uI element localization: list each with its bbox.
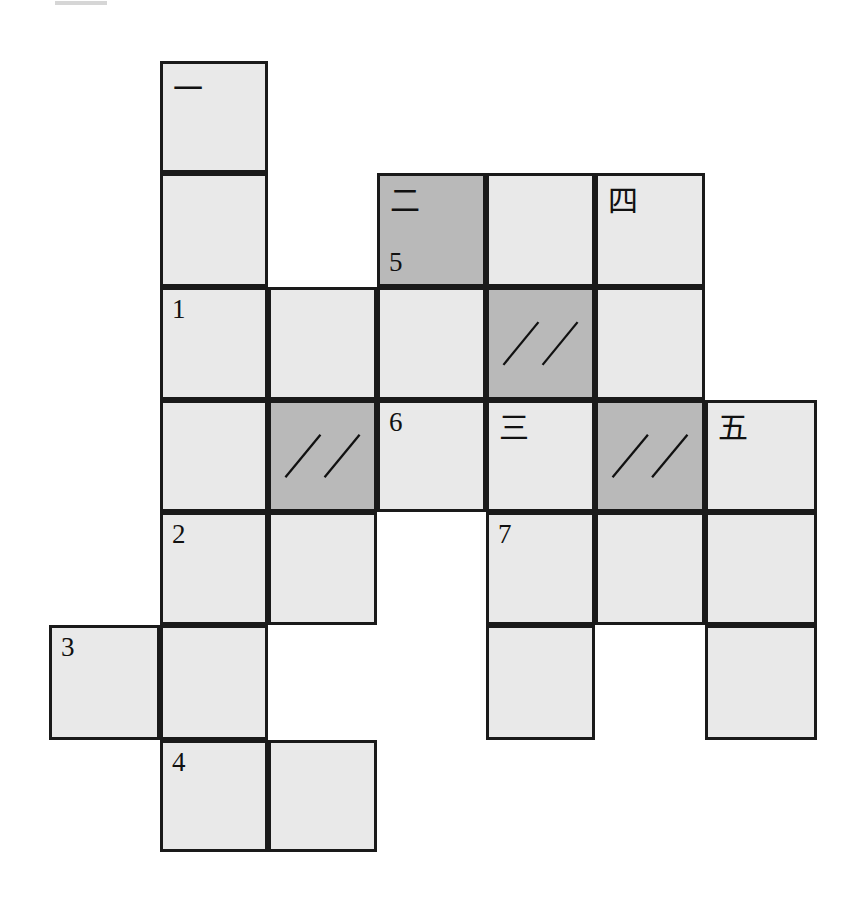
- grid-cell[interactable]: [160, 625, 268, 740]
- grid-cell[interactable]: [160, 173, 268, 287]
- hatch-slashes-icon: [598, 403, 702, 509]
- grid-canvas: 一二5四16三五2734: [0, 0, 857, 897]
- cell-han-numeral: 三: [499, 413, 529, 443]
- grid-cell[interactable]: [268, 400, 377, 512]
- hatch-slashes-icon: [489, 290, 592, 397]
- cell-number-label: 1: [172, 296, 186, 323]
- grid-cell[interactable]: [160, 400, 268, 512]
- grid-cell[interactable]: 四: [595, 173, 705, 287]
- grid-cell[interactable]: [595, 287, 705, 400]
- grid-cell[interactable]: [705, 512, 817, 625]
- cell-han-numeral: 五: [718, 413, 748, 443]
- cell-number-label: 2: [172, 521, 186, 548]
- top-smudge-mark: [55, 1, 107, 5]
- cell-han-numeral: 一: [173, 74, 203, 104]
- cell-number-label: 4: [172, 749, 186, 776]
- grid-cell[interactable]: [486, 173, 595, 287]
- grid-cell[interactable]: 2: [160, 512, 268, 625]
- grid-cell[interactable]: [486, 287, 595, 400]
- grid-cell[interactable]: 五: [705, 400, 817, 512]
- grid-cell[interactable]: [377, 287, 486, 400]
- cell-han-numeral: 二: [390, 186, 420, 216]
- grid-cell[interactable]: 二5: [377, 173, 486, 287]
- cell-han-numeral: 四: [608, 186, 638, 216]
- grid-cell[interactable]: 三: [486, 400, 595, 512]
- grid-cell[interactable]: 1: [160, 287, 268, 400]
- grid-cell[interactable]: [595, 512, 705, 625]
- hatch-slashes-icon: [271, 403, 374, 509]
- grid-cell[interactable]: [705, 625, 817, 740]
- grid-cell[interactable]: 7: [486, 512, 595, 625]
- grid-cell[interactable]: [268, 740, 377, 852]
- cell-number-label: 6: [389, 409, 403, 436]
- cell-number-label: 3: [61, 634, 75, 661]
- grid-cell[interactable]: 4: [160, 740, 268, 852]
- grid-cell[interactable]: [486, 625, 595, 740]
- cell-number-label: 5: [389, 249, 403, 276]
- cell-number-label: 7: [498, 521, 512, 548]
- grid-cell[interactable]: 一: [160, 61, 268, 173]
- grid-cell[interactable]: 6: [377, 400, 486, 512]
- grid-cell[interactable]: [268, 287, 377, 400]
- grid-cell[interactable]: [595, 400, 705, 512]
- grid-cell[interactable]: [268, 512, 377, 625]
- grid-cell[interactable]: 3: [49, 625, 160, 740]
